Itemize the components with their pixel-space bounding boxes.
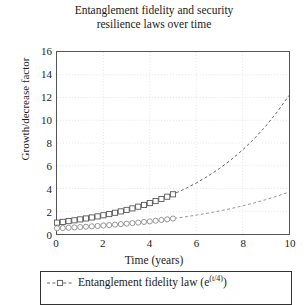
data-point-marker xyxy=(165,194,170,199)
x-tick-label-4: 4 xyxy=(135,238,165,249)
y-tick-label-8: 8 xyxy=(28,138,52,149)
legend-sample-icon xyxy=(46,275,74,287)
data-point-marker xyxy=(136,220,141,225)
data-point-marker xyxy=(101,223,106,228)
data-point-marker xyxy=(141,202,146,207)
y-tick-label-12: 12 xyxy=(28,92,52,103)
data-point-marker xyxy=(112,222,117,227)
data-point-marker xyxy=(60,225,65,230)
data-point-marker xyxy=(78,224,83,229)
data-point-marker xyxy=(170,192,175,197)
data-point-marker xyxy=(66,219,71,224)
x-tick-label-6: 6 xyxy=(181,238,211,249)
data-point-marker xyxy=(60,219,65,224)
data-point-marker xyxy=(101,213,106,218)
y-tick-label-4: 4 xyxy=(28,184,52,195)
data-point-marker xyxy=(153,199,158,204)
y-tick-label-16: 16 xyxy=(28,46,52,57)
x-axis-tick-labels: 0246810 xyxy=(0,238,308,254)
data-point-marker xyxy=(147,201,152,206)
x-tick-label-8: 8 xyxy=(228,238,258,249)
series-line-1 xyxy=(57,192,289,228)
data-point-marker xyxy=(124,207,129,212)
data-point-marker xyxy=(141,219,146,224)
legend-entry-label: Entanglement fidelity law (e(t/4)) xyxy=(78,273,227,288)
data-point-marker xyxy=(72,218,77,223)
data-point-marker xyxy=(147,219,152,224)
data-point-marker xyxy=(136,204,141,209)
data-point-marker xyxy=(83,224,88,229)
x-axis-label: Time (years) xyxy=(0,254,308,266)
data-point-marker xyxy=(78,217,83,222)
data-point-marker xyxy=(130,206,135,211)
data-point-marker xyxy=(159,217,164,222)
y-tick-label-6: 6 xyxy=(28,161,52,172)
data-point-marker xyxy=(107,223,112,228)
data-point-marker xyxy=(83,216,88,221)
data-point-marker xyxy=(89,215,94,220)
x-tick-label-10: 10 xyxy=(275,238,305,249)
data-point-marker xyxy=(89,224,94,229)
data-point-marker xyxy=(112,210,117,215)
data-point-marker xyxy=(153,218,158,223)
data-point-marker xyxy=(107,211,112,216)
data-point-marker xyxy=(72,225,77,230)
data-point-marker xyxy=(66,225,71,230)
y-tick-label-2: 2 xyxy=(28,207,52,218)
x-tick-label-0: 0 xyxy=(41,238,71,249)
data-point-marker xyxy=(165,217,170,222)
data-point-marker xyxy=(95,214,100,219)
x-tick-label-2: 2 xyxy=(88,238,118,249)
data-point-marker xyxy=(159,196,164,201)
data-point-marker xyxy=(54,226,59,231)
data-point-marker xyxy=(118,209,123,214)
legend-entry-0: Entanglement fidelity law (e(t/4)) xyxy=(41,272,291,289)
data-series-layer xyxy=(57,52,289,234)
data-point-marker xyxy=(95,223,100,228)
plot-area xyxy=(56,51,290,235)
data-point-marker xyxy=(170,216,175,221)
series-line-0 xyxy=(57,95,289,222)
data-point-marker xyxy=(130,221,135,226)
chart-legend: Entanglement fidelity law (e(t/4)) xyxy=(40,271,292,305)
y-tick-label-14: 14 xyxy=(28,69,52,80)
data-point-marker xyxy=(124,221,129,226)
data-point-marker xyxy=(54,220,59,225)
y-tick-label-10: 10 xyxy=(28,115,52,126)
data-point-marker xyxy=(118,222,123,227)
